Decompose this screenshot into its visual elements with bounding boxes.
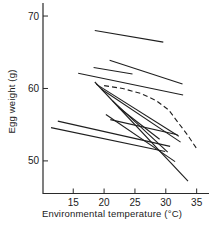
y-tick-label: 50 — [28, 155, 40, 166]
data-line-11 — [110, 120, 177, 135]
data-line-5 — [95, 82, 188, 181]
y-axis-label: Egg weight (g) — [6, 62, 17, 142]
axis-spine — [43, 3, 209, 194]
x-tick-label: 15 — [68, 197, 80, 208]
x-tick-label: 30 — [160, 197, 172, 208]
y-tick-label: 60 — [28, 83, 40, 94]
x-tick-label: 20 — [99, 197, 111, 208]
y-tick-label: 70 — [28, 11, 40, 22]
data-line-4 — [94, 68, 133, 75]
x-tick-label: 35 — [191, 197, 203, 208]
data-line-10 — [106, 115, 175, 162]
data-line-3 — [78, 73, 183, 95]
egg-weight-temperature-chart: 1520253035506070 Environmental temperatu… — [0, 0, 224, 236]
chart-canvas: 1520253035506070 — [0, 0, 224, 236]
x-axis-label: Environmental temperature (°C) — [0, 208, 224, 219]
data-line-1 — [95, 31, 164, 43]
x-tick-label: 25 — [129, 197, 141, 208]
data-line-13 — [51, 128, 165, 152]
